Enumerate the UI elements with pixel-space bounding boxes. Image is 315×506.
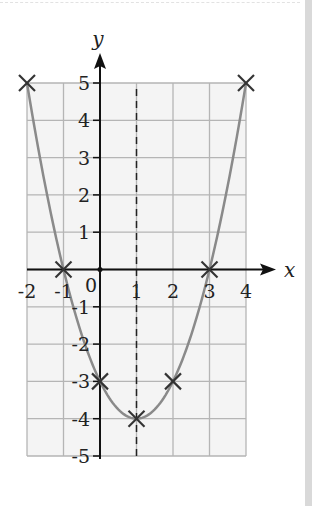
y-tick-label: 5 (78, 72, 90, 94)
x-tick-label: -1 (54, 280, 73, 302)
y-tick-label: 2 (78, 184, 90, 206)
y-tick-label: -1 (71, 296, 90, 318)
y-tick-label: 1 (78, 221, 90, 243)
y-tick-label: -5 (71, 445, 90, 467)
x-tick-label: 3 (203, 280, 215, 302)
origin-dot (98, 267, 103, 272)
y-axis-label: y (91, 27, 104, 51)
x-tick-label: 1 (130, 280, 142, 302)
y-tick-label: -3 (71, 370, 90, 392)
y-tick-label: -2 (71, 333, 90, 355)
x-axis-label: x (284, 258, 295, 282)
y-tick-label: -4 (71, 408, 90, 430)
x-tick-label: 2 (167, 280, 179, 302)
parabola-chart: 54321-1-2-3-4-5-2-112340xy (0, 0, 315, 506)
y-tick-label: 3 (78, 147, 90, 169)
x-tick-label: -2 (18, 280, 37, 302)
y-tick-label: 4 (78, 109, 90, 131)
x-tick-label: 4 (240, 280, 252, 302)
origin-label: 0 (85, 274, 97, 296)
